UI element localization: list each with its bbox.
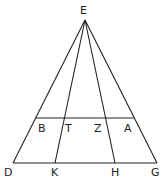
point-label-E: E <box>80 4 87 17</box>
segment-EH <box>85 20 115 163</box>
point-label-H: H <box>111 166 119 177</box>
point-label-T: T <box>64 122 72 135</box>
geometry-diagram: E B T Z A D K H G <box>0 0 162 177</box>
point-label-B: B <box>38 122 46 135</box>
point-label-Z: Z <box>94 122 102 135</box>
point-label-K: K <box>51 166 59 177</box>
point-label-D: D <box>4 166 12 177</box>
point-label-G: G <box>151 166 160 177</box>
segment-EK <box>55 20 85 163</box>
segment-ED <box>13 20 85 163</box>
segment-EG <box>85 20 157 163</box>
point-label-A: A <box>124 122 132 135</box>
